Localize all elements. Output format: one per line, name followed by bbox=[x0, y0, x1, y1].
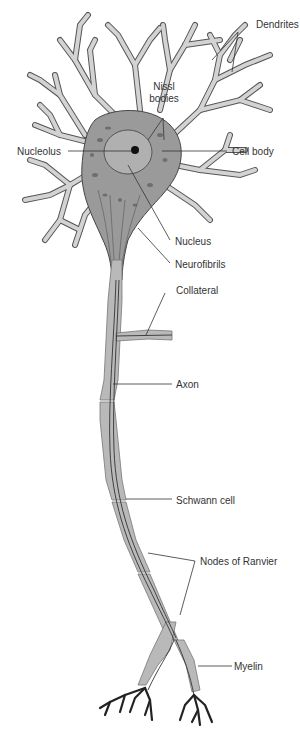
label-neurofibrils: Neurofibrils bbox=[175, 259, 226, 270]
label-cell-body: Cell body bbox=[232, 146, 274, 157]
nucleus-shape bbox=[104, 130, 152, 174]
label-nucleolus: Nucleolus bbox=[17, 146, 61, 157]
neuron-diagram: Dendrites Nissl bodies Nucleolus Cell bo… bbox=[0, 0, 300, 735]
label-dendrites: Dendrites bbox=[256, 19, 299, 30]
nucleolus-shape bbox=[131, 146, 139, 154]
label-nissl-line1: Nissl bbox=[153, 81, 175, 92]
label-nodes-of-ranvier: Nodes of Ranvier bbox=[200, 556, 278, 567]
label-nucleus: Nucleus bbox=[175, 236, 211, 247]
label-myelin: Myelin bbox=[234, 661, 263, 672]
axon-terminals bbox=[100, 688, 212, 725]
label-nissl-line2: bodies bbox=[149, 93, 178, 104]
label-schwann-cell: Schwann cell bbox=[176, 495, 235, 506]
label-axon: Axon bbox=[176, 379, 199, 390]
label-collateral: Collateral bbox=[176, 285, 218, 296]
